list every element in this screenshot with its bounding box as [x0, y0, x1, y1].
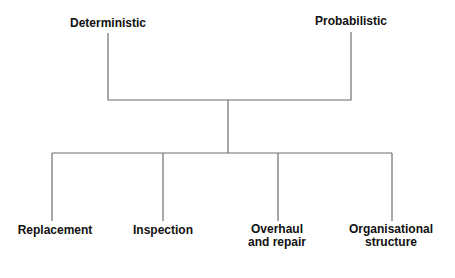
node-overhaul-line2: and repair — [248, 236, 306, 249]
node-overhaul-and-repair: Overhaul and repair — [248, 223, 306, 249]
node-organisational-structure: Organisational structure — [349, 223, 433, 249]
node-deterministic: Deterministic — [70, 17, 146, 30]
node-replacement: Replacement — [18, 224, 93, 237]
node-inspection: Inspection — [133, 224, 193, 237]
node-organisational-line2: structure — [349, 236, 433, 249]
node-probabilistic: Probabilistic — [315, 15, 387, 28]
top-bracket-line — [108, 32, 351, 100]
